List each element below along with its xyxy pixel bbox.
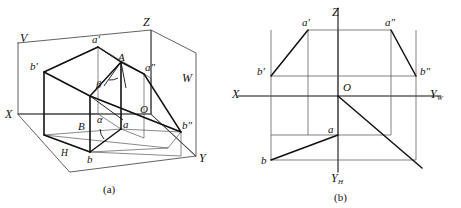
side-view-segment: [391, 30, 416, 76]
projector-a-top-to-side: [121, 129, 144, 138]
A-to-side-projection: [121, 62, 144, 74]
label-axis-x: X: [5, 108, 12, 120]
label-axis-z: Z: [143, 16, 150, 28]
label-b-point-b-front: b′: [257, 66, 265, 77]
label-b-axis-yh: YH: [331, 172, 343, 186]
panel-a-pictorial: V W H X Y Z O A B a′ b′ a b a″ b″ α β (a…: [0, 0, 230, 208]
label-point-b-top: b: [87, 154, 93, 165]
beta-wedge-leg-2: [121, 62, 126, 88]
w-plane-outline: [151, 30, 196, 156]
label-point-a-side: a″: [145, 62, 155, 73]
label-b-axis-yw-letter: Y: [430, 87, 437, 101]
side-projection-a-b: [144, 74, 181, 132]
caption-panel-b: (b): [334, 192, 347, 203]
label-b-axis-yh-letter: Y: [331, 171, 338, 185]
label-b-point-b-side: b″: [420, 66, 430, 77]
beta-wedge-leg-1: [104, 62, 121, 86]
label-w-plane: W: [182, 72, 192, 84]
label-axis-y: Y: [199, 152, 206, 164]
label-b-axis-yw: YW: [430, 88, 443, 102]
label-point-a-top: a: [123, 119, 129, 130]
projection-segments: [271, 30, 422, 168]
label-point-b-front: b′: [30, 61, 38, 72]
label-b-point-a-front: a′: [302, 17, 310, 28]
alpha-wedge-leg: [90, 96, 123, 120]
projector-b-top-to-side: [90, 152, 181, 156]
h-inner-cross-a-bside: [121, 129, 181, 132]
figure-root: V W H X Y Z O A B a′ b′ a b a″ b″ α β (a…: [0, 0, 461, 208]
segment-and-projections: [44, 47, 181, 152]
panel-b-drawing: [230, 0, 461, 208]
v-plane-outline: [18, 30, 151, 114]
label-point-B: B: [78, 121, 85, 132]
label-angle-beta: β: [96, 80, 101, 91]
construction-lines: [44, 47, 181, 156]
label-b-origin-o: O: [343, 82, 351, 93]
label-angle-alpha: α: [97, 115, 103, 126]
label-point-A: A: [118, 52, 125, 63]
panel-b-orthographic: Z X YW YH O a′ a″ b′ b″ a b (b): [230, 0, 461, 208]
label-b-point-a-top: a: [328, 124, 334, 135]
top-view-segment: [271, 135, 338, 160]
label-b-axis-x: X: [232, 88, 239, 100]
h-plane-inner-lower-edge: [90, 148, 168, 152]
panel-a-drawing: [0, 0, 230, 208]
front-projection-a-b: [44, 47, 98, 72]
label-b-point-a-side: a″: [385, 17, 395, 28]
label-h-plane: H: [61, 149, 68, 159]
label-v-plane: V: [20, 32, 27, 44]
label-b-point-b-top: b: [261, 155, 267, 166]
caption-panel-a: (a): [103, 184, 115, 195]
label-point-a-front: a′: [92, 34, 100, 45]
label-b-axis-z: Z: [332, 6, 339, 18]
label-b-axis-yh-subscript: H: [338, 178, 343, 186]
B-to-front-projection: [44, 72, 90, 96]
axes: [238, 8, 441, 172]
front-view-segment: [271, 30, 308, 76]
label-origin-o: O: [140, 104, 148, 115]
beta-angle-arc: [109, 78, 118, 80]
label-b-axis-yw-subscript: W: [437, 94, 443, 102]
forty-five-degree-mitre-line: [338, 96, 422, 168]
label-point-b-side: b″: [182, 120, 192, 131]
